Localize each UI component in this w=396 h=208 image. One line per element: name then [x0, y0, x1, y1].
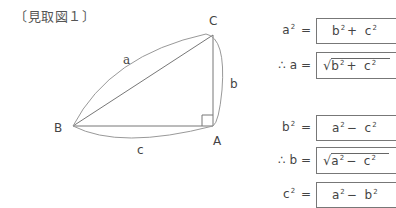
side-a-arc: [73, 34, 206, 126]
side-b-label: b: [230, 77, 238, 91]
equation-row-a: ∴ a = √b2+ c2: [0, 52, 377, 79]
side-b-arc: [206, 34, 223, 126]
hypotenuse-line: [73, 35, 213, 126]
answer-box: √b2+ c2: [316, 52, 396, 79]
equation-row-a-squared: a2 = b2+ c2: [0, 18, 377, 44]
equation-row-b-squared: b2 = a2− c2: [0, 115, 377, 141]
answer-box: a2− b2: [316, 182, 396, 208]
equation-lhs: a2 =: [282, 23, 311, 37]
equation-lhs: c2 =: [283, 187, 311, 201]
equation-row-c-squared: c2 = a2− b2: [0, 182, 377, 208]
equation-lhs: ∴ b =: [278, 153, 311, 167]
answer-box: √a2− c2: [316, 147, 396, 174]
answer-box: b2+ c2: [316, 18, 396, 44]
equation-lhs: ∴ a =: [278, 58, 311, 72]
equation-row-b: ∴ b = √a2− c2: [0, 147, 377, 174]
equation-lhs: b2 =: [282, 120, 311, 134]
answer-box: a2− c2: [316, 115, 396, 141]
